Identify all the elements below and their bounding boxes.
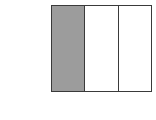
part-1-shaded (52, 6, 84, 91)
part-3-unshaded (118, 6, 151, 91)
part-2-unshaded (84, 6, 117, 91)
fraction-rectangle (51, 5, 152, 92)
